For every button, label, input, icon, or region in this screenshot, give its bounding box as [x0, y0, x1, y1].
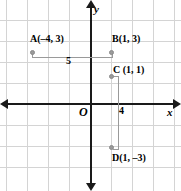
gridline-vertical — [69, 0, 70, 191]
point-b-marker — [109, 50, 114, 55]
point-a-label: A(–4, 3) — [30, 33, 64, 44]
x-axis-left-arrow-icon — [0, 99, 8, 109]
point-b-label: B(1, 3) — [112, 33, 140, 44]
origin-label: O — [79, 105, 88, 120]
x-axis-label: x — [167, 106, 173, 118]
segment-ab-bracket — [32, 52, 113, 58]
x-axis-right-arrow-icon — [173, 99, 181, 109]
gridline-vertical — [174, 0, 175, 191]
y-axis-down-arrow-icon — [86, 183, 96, 191]
gridline-vertical — [6, 0, 7, 191]
coordinate-plane: x y O 5 4 A(–4, 3) B(1, 3) C (1, 1) D(1,… — [0, 0, 181, 191]
segment-ab-length-label: 5 — [66, 55, 71, 66]
gridline-vertical — [48, 0, 49, 191]
y-axis-label: y — [94, 3, 99, 15]
segment-cd-length-label: 4 — [119, 105, 124, 116]
point-c-label: C (1, 1) — [113, 64, 144, 75]
gridline-vertical — [27, 0, 28, 191]
gridline-vertical — [153, 0, 154, 191]
point-d-label: D(1, –3) — [112, 152, 146, 163]
point-a-marker — [30, 50, 35, 55]
y-axis — [90, 7, 92, 183]
point-d-marker — [109, 145, 114, 150]
